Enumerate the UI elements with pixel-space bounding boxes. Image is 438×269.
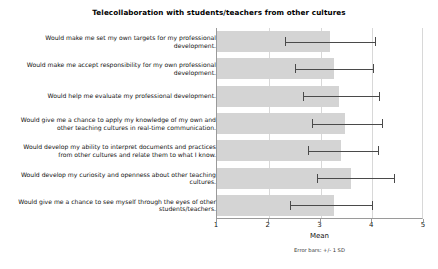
error-cap-low [317,174,318,183]
bar-chart: Telecollaboration with students/teachers… [0,0,438,269]
x-tick-label: 2 [258,221,278,229]
x-tick-label: 1 [206,221,226,229]
error-bar [308,151,379,152]
y-axis-category-label: Would develop my ability to interpret do… [11,143,216,158]
x-tick-label: 4 [361,221,381,229]
error-cap-high [379,92,380,101]
bar-row [217,58,424,79]
error-cap-high [382,119,383,128]
error-bar [317,178,394,179]
error-bar [312,124,382,125]
error-bar [290,205,372,206]
error-cap-low [312,119,313,128]
x-axis-label: Mean [216,232,423,240]
error-cap-high [378,146,379,155]
y-axis-category-label: Would give me a chance to apply my knowl… [11,116,216,131]
y-axis-category-label: Would make me accept responsibility for … [11,61,216,76]
x-tick-label: 3 [310,221,330,229]
error-cap-low [290,201,291,210]
bar-row [217,140,424,161]
error-cap-low [308,146,309,155]
error-bar [295,69,374,70]
bar-row [217,86,424,107]
y-axis-category-label: Would give me a chance to see myself thr… [11,198,216,213]
error-bar [285,42,375,43]
y-axis-category-label: Would develop my curiosity and openness … [11,171,216,186]
error-cap-high [375,37,376,46]
error-cap-low [295,64,296,73]
error-cap-low [303,92,304,101]
error-cap-low [285,37,286,46]
error-cap-high [373,64,374,73]
error-bar [303,96,379,97]
error-bar-note: Error bars: +/- 1 SD [216,247,423,253]
y-axis-category-label: Would make me set my own targets for my … [11,34,216,49]
error-cap-high [372,201,373,210]
bar-row [217,168,424,189]
plot-area [216,28,423,219]
x-tick-label: 5 [413,221,433,229]
bar-row [217,195,424,216]
bar-row [217,113,424,134]
error-cap-high [394,174,395,183]
y-axis-category-label: Would help me evaluate my professional d… [11,92,216,100]
bar-row [217,31,424,52]
chart-title: Telecollaboration with students/teachers… [0,8,438,17]
